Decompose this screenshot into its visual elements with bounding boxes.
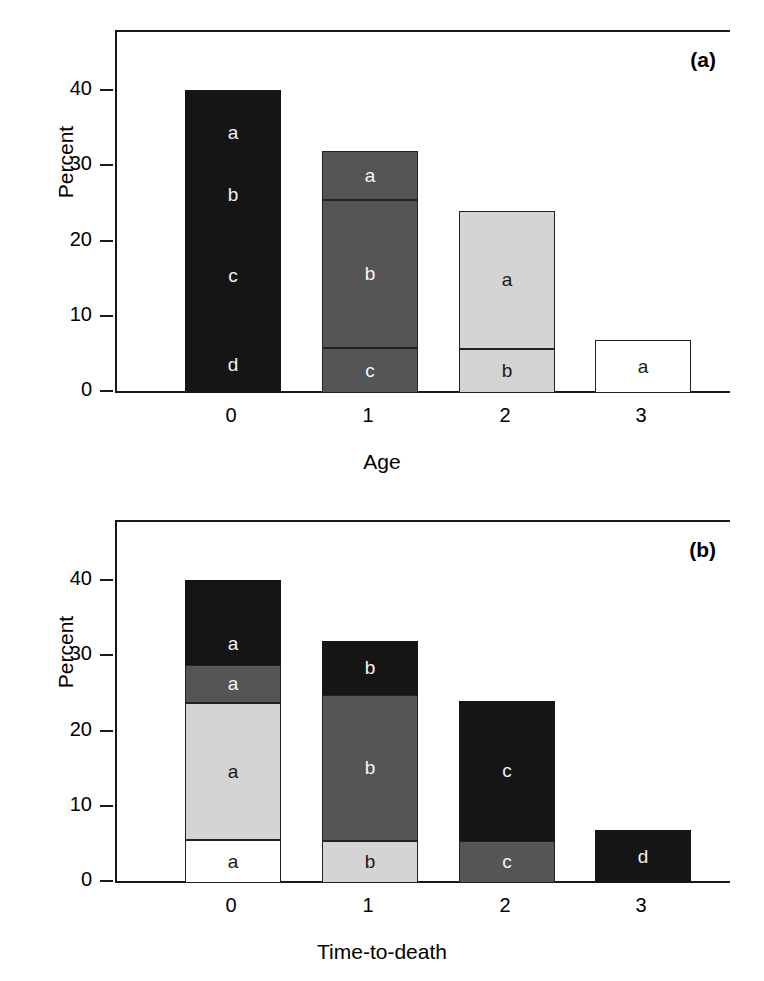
bar-panel-b-2[interactable]: cc xyxy=(459,522,555,885)
bar-segment-unlabeled[interactable] xyxy=(185,580,281,621)
bar-segment-d[interactable]: d xyxy=(595,830,691,883)
bar-segment-label: a xyxy=(228,123,239,142)
bar-segment-d[interactable]: d xyxy=(185,337,281,393)
y-tick-mark xyxy=(100,240,113,242)
bar-segment-b[interactable]: b xyxy=(322,695,418,841)
bar-segment-label: a xyxy=(228,674,239,693)
panel-label-a: (a) xyxy=(690,48,716,72)
bar-segment-label: b xyxy=(365,658,376,677)
y-tick-mark xyxy=(100,880,113,882)
bar-segment-label: a xyxy=(228,762,239,781)
y-tick-mark xyxy=(100,805,113,807)
stacked-bar-figure: (a) dcbacbabaa Percent 010203040 0123 Ag… xyxy=(0,0,764,981)
bar-panel-b-1[interactable]: bbb xyxy=(322,522,418,885)
bar-segment-label: b xyxy=(502,361,513,380)
y-tick-label: 10 xyxy=(40,793,92,816)
plot-frame-a: (a) dcbacbabaa xyxy=(115,30,730,393)
bar-segment-label: b xyxy=(365,758,376,777)
bar-segment-label: b xyxy=(365,264,376,283)
bar-segment-a[interactable]: a xyxy=(185,840,281,883)
x-tick-label-2: 2 xyxy=(485,894,525,917)
x-tick-label-1: 1 xyxy=(348,404,388,427)
bar-segment-b[interactable]: b xyxy=(185,174,281,215)
y-tick-label: 30 xyxy=(40,152,92,175)
bar-segment-a[interactable]: a xyxy=(185,703,281,840)
y-tick-mark xyxy=(100,89,113,91)
bar-segment-label: a xyxy=(638,357,649,376)
y-tick-label: 40 xyxy=(40,567,92,590)
bar-segment-label: c xyxy=(228,266,238,285)
bar-panel-a-0[interactable]: dcba xyxy=(185,32,281,395)
bar-segment-label: a xyxy=(365,166,376,185)
y-tick-label: 30 xyxy=(40,642,92,665)
bar-segment-b[interactable]: b xyxy=(459,349,555,393)
bar-segment-label: a xyxy=(228,852,239,871)
bar-segment-label: a xyxy=(502,270,513,289)
y-tick-label: 40 xyxy=(40,77,92,100)
bar-segment-label: a xyxy=(228,634,239,653)
y-tick-mark xyxy=(100,315,113,317)
bar-segment-c[interactable]: c xyxy=(185,215,281,337)
bar-segment-a[interactable]: a xyxy=(185,90,281,174)
panel-label-b: (b) xyxy=(689,538,716,562)
bar-segment-a[interactable]: a xyxy=(185,665,281,703)
bar-segment-label: c xyxy=(502,761,512,780)
x-tick-label-1: 1 xyxy=(348,894,388,917)
bar-segment-label: b xyxy=(365,852,376,871)
panel-a: (a) dcbacbabaa Percent 010203040 0123 Ag… xyxy=(0,0,764,490)
y-tick-mark xyxy=(100,730,113,732)
x-axis-title-a: Age xyxy=(0,450,764,474)
y-tick-label: 0 xyxy=(40,378,92,401)
bar-segment-label: b xyxy=(228,185,239,204)
x-tick-label-2: 2 xyxy=(485,404,525,427)
bar-segment-b[interactable]: b xyxy=(322,841,418,883)
y-tick-label: 0 xyxy=(40,868,92,891)
y-tick-label: 20 xyxy=(40,228,92,251)
x-tick-label-0: 0 xyxy=(211,404,251,427)
y-tick-label: 10 xyxy=(40,303,92,326)
bar-segment-c[interactable]: c xyxy=(459,701,555,841)
y-tick-mark xyxy=(100,654,113,656)
y-tick-mark xyxy=(100,164,113,166)
bar-segment-c[interactable]: c xyxy=(459,841,555,883)
bar-segment-label: d xyxy=(228,355,239,374)
bar-segment-label: d xyxy=(638,847,649,866)
bar-segment-a[interactable]: a xyxy=(595,340,691,393)
panel-b: (b) aaaabbbccd Percent 010203040 0123 Ti… xyxy=(0,490,764,981)
x-axis-title-b: Time-to-death xyxy=(0,940,764,964)
bar-segment-b[interactable]: b xyxy=(322,641,418,695)
y-tick-mark xyxy=(100,579,113,581)
bar-segment-b[interactable]: b xyxy=(322,200,418,348)
plot-frame-b: (b) aaaabbbccd xyxy=(115,520,730,883)
x-tick-label-3: 3 xyxy=(621,894,661,917)
x-tick-label-0: 0 xyxy=(211,894,251,917)
x-tick-label-3: 3 xyxy=(621,404,661,427)
bar-panel-a-1[interactable]: cba xyxy=(322,32,418,395)
bar-panel-a-2[interactable]: ba xyxy=(459,32,555,395)
y-tick-label: 20 xyxy=(40,718,92,741)
bar-segment-label: c xyxy=(365,361,375,380)
bar-segment-a[interactable]: a xyxy=(322,151,418,200)
y-tick-mark xyxy=(100,390,113,392)
bar-panel-b-0[interactable]: aaaa xyxy=(185,522,281,885)
bar-segment-a[interactable]: a xyxy=(459,211,555,349)
bar-panel-b-3[interactable]: d xyxy=(595,522,691,885)
bar-segment-label: c xyxy=(502,852,512,871)
bar-segment-a[interactable]: a xyxy=(185,622,281,665)
bar-segment-c[interactable]: c xyxy=(322,348,418,393)
bar-panel-a-3[interactable]: a xyxy=(595,32,691,395)
